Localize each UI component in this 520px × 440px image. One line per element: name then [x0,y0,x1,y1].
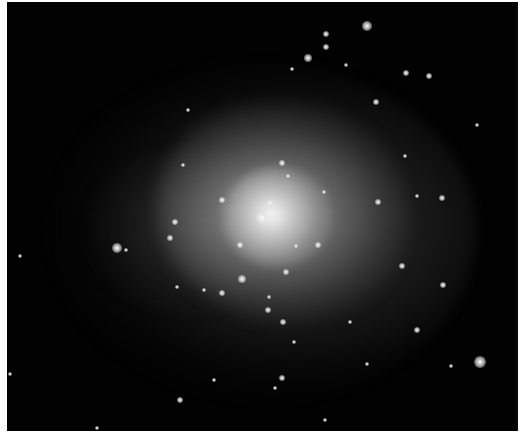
galaxy-point [112,243,122,253]
galaxy-point [202,288,206,292]
galaxy-point [177,397,183,403]
galaxy-point [279,375,285,381]
galaxy-point [403,70,409,76]
galaxy-point [440,282,446,288]
galaxy-point [403,154,407,158]
galaxy-point [414,327,420,333]
galaxy-point [474,356,486,368]
galaxy-point [475,123,479,127]
galaxy-point [238,275,246,283]
galaxy-point [124,248,128,252]
galaxy-point [273,386,277,390]
galaxy-point [167,235,173,241]
galaxy-point [219,290,225,296]
galaxy-point [426,73,432,79]
galaxy-point [323,418,327,422]
cluster-core [222,167,332,267]
galaxy-point [279,160,285,166]
galaxy-point [294,244,298,248]
galaxy-point [256,212,268,224]
galaxy-point [323,44,329,50]
galaxy-point [283,269,289,275]
galaxy-point [365,362,369,366]
galaxy-point [375,199,381,205]
galaxy-point [237,242,243,248]
galaxy-point [8,372,12,376]
galaxy-point [175,285,179,289]
galaxy-point [172,219,178,225]
galaxy-point [286,174,290,178]
galaxy-point [181,163,185,167]
galaxy-point [267,200,273,206]
galaxy-point [449,364,453,368]
galaxy-point [344,63,348,67]
galaxy-point [348,320,352,324]
galaxy-point [315,242,321,248]
galaxy-point [95,426,99,430]
galaxy-point [304,54,312,62]
galaxy-point [290,67,294,71]
galaxy-point [219,197,225,203]
galaxy-point [373,99,379,105]
galaxy-point [267,295,271,299]
galaxy-point [292,340,296,344]
galaxy-point [18,254,22,258]
galaxy-point [415,194,419,198]
galaxy-point [265,307,271,313]
galaxy-point [439,195,445,201]
galaxy-point [280,319,286,325]
galaxy-point [322,190,326,194]
galaxy-point [323,31,329,37]
image-edge [516,2,518,431]
astronomical-image [7,2,518,431]
galaxy-point [362,21,372,31]
galaxy-point [399,263,405,269]
galaxy-point [186,108,190,112]
galaxy-point [212,378,216,382]
